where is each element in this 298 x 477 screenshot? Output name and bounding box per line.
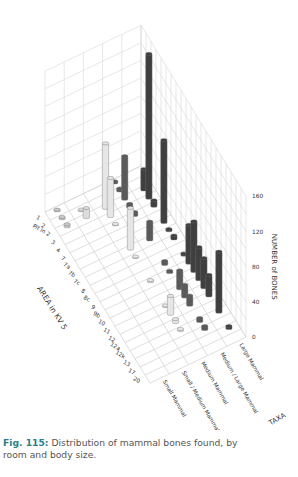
z-tick-label: 120: [252, 229, 263, 235]
bar: [132, 255, 138, 259]
area-tick-label: 8c: [83, 294, 92, 303]
bar: [127, 206, 133, 250]
bar: [64, 223, 70, 228]
chart-labels: 12Pit in 23477a7b7c88c99b10111212a12k131…: [32, 193, 288, 430]
taxa-tick-label: Small Mammal: [162, 379, 188, 418]
z-axis-title: NUMBER of BONES: [270, 234, 278, 301]
bar: [122, 155, 128, 201]
bar: [161, 138, 167, 223]
bar: [171, 234, 177, 240]
area-tick-label: 4: [55, 247, 61, 254]
taxa-axis-title: TAXA: [267, 411, 288, 428]
bar: [167, 294, 173, 315]
figure-caption: Fig. 115: Distribution of mammal bones f…: [3, 437, 243, 461]
bar: [216, 250, 222, 313]
chart-bars: [54, 52, 232, 331]
area-tick-label: 3: [50, 239, 56, 246]
bar: [166, 227, 172, 231]
z-tick-label: 160: [252, 193, 263, 199]
bar: [112, 222, 118, 226]
z-tick-label: 0: [252, 334, 256, 340]
taxa-tick-label: Large Mammal: [238, 342, 265, 382]
bar: [107, 176, 113, 217]
bar: [147, 220, 153, 241]
bar: [197, 316, 203, 322]
figure-number: Fig. 115:: [3, 437, 49, 448]
z-tick-label: 80: [252, 264, 260, 270]
bar: [226, 324, 232, 329]
bar-chart-3d: 12Pit in 23477a7b7c88c99b10111212a12k131…: [0, 0, 298, 430]
area-axis-title: AREA in KV 5: [35, 284, 69, 331]
bar: [177, 327, 183, 331]
area-tick-label: 1: [35, 214, 41, 221]
bar: [147, 278, 153, 282]
area-tick-label: 20: [132, 375, 142, 384]
bar: [206, 273, 212, 297]
bar: [187, 294, 193, 306]
bar: [146, 52, 152, 199]
taxa-tick-label: Medium Mammal: [200, 360, 230, 405]
bar: [202, 325, 208, 331]
area-tick-label: 7c: [73, 278, 82, 287]
bar: [59, 215, 65, 219]
bar: [162, 259, 168, 265]
bar: [83, 206, 89, 218]
bar: [167, 269, 173, 273]
bar: [151, 199, 157, 208]
bar: [172, 317, 178, 323]
z-tick-label: 40: [252, 299, 260, 305]
bar: [54, 208, 60, 212]
